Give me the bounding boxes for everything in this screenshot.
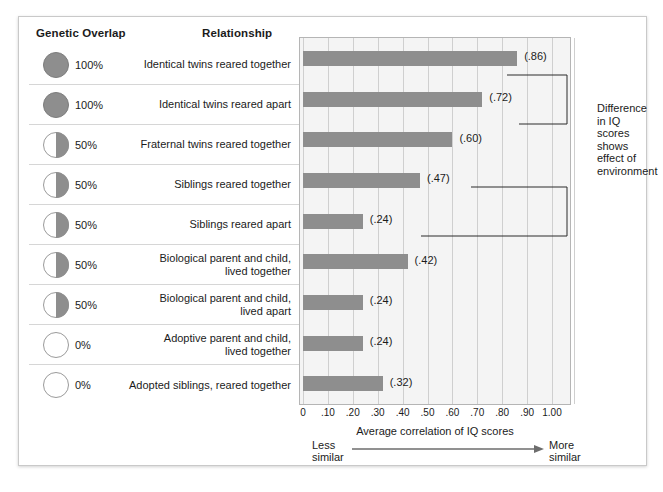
x-tick-label: .70 bbox=[470, 407, 484, 418]
bar-value-label: (.32) bbox=[390, 376, 413, 388]
bar bbox=[303, 376, 383, 391]
table-row: 100%Identical twins reared apart bbox=[29, 85, 301, 125]
genetic-overlap-pie-icon bbox=[43, 92, 69, 118]
table-row: 0%Adoptive parent and child,lived togeth… bbox=[29, 325, 301, 365]
annotation-line-3: scores bbox=[597, 127, 663, 140]
bar-value-label: (.86) bbox=[524, 50, 547, 62]
genetic-overlap-cell: 50% bbox=[29, 252, 125, 278]
genetic-overlap-pie-icon bbox=[43, 172, 69, 198]
bar-value-label: (.47) bbox=[427, 172, 450, 184]
environment-effect-annotation: Difference in IQ scores shows effect of … bbox=[597, 102, 663, 177]
gridline-vertical bbox=[552, 38, 553, 404]
genetic-overlap-pie-icon bbox=[43, 372, 69, 398]
bar-value-label: (.42) bbox=[415, 254, 438, 266]
table-row: 50%Biological parent and child,lived apa… bbox=[29, 285, 301, 325]
genetic-overlap-percent: 100% bbox=[75, 99, 103, 111]
genetic-overlap-cell: 50% bbox=[29, 132, 125, 158]
bar bbox=[303, 214, 363, 229]
x-tick-label: .20 bbox=[346, 407, 360, 418]
bar bbox=[303, 173, 420, 188]
annotation-line-6: environment bbox=[597, 165, 663, 178]
genetic-overlap-cell: 50% bbox=[29, 212, 125, 238]
relationship-label: Siblings reared apart bbox=[125, 218, 301, 231]
less-similar-line1: Less bbox=[312, 439, 344, 451]
x-tick-label: .30 bbox=[371, 407, 385, 418]
less-similar-line2: similar bbox=[312, 451, 344, 463]
gridline-vertical bbox=[574, 38, 575, 404]
x-tick-label: .60 bbox=[445, 407, 459, 418]
column-header-relationship: Relationship bbox=[202, 27, 272, 39]
relationship-table: 100%Identical twins reared together100%I… bbox=[29, 45, 301, 405]
figure-page: Genetic Overlap Relationship 100%Identic… bbox=[0, 0, 663, 492]
x-tick-label: 0 bbox=[300, 407, 306, 418]
genetic-overlap-cell: 50% bbox=[29, 292, 125, 318]
genetic-overlap-percent: 0% bbox=[75, 379, 91, 391]
bar bbox=[303, 92, 482, 107]
similarity-arrow-group: Less similar More similar bbox=[294, 441, 584, 455]
genetic-overlap-cell: 0% bbox=[29, 372, 125, 398]
annotation-line-5: effect of bbox=[597, 152, 663, 165]
table-row: 50%Siblings reared together bbox=[29, 165, 301, 205]
genetic-overlap-percent: 100% bbox=[75, 59, 103, 71]
annotation-line-1: Difference bbox=[597, 102, 663, 115]
column-header-genetic-overlap: Genetic Overlap bbox=[36, 27, 126, 39]
genetic-overlap-percent: 50% bbox=[75, 179, 97, 191]
genetic-overlap-percent: 50% bbox=[75, 299, 97, 311]
table-row: 0%Adopted siblings, reared together bbox=[29, 365, 301, 405]
gridline-vertical bbox=[527, 38, 528, 404]
table-row: 100%Identical twins reared together bbox=[29, 45, 301, 85]
x-tick-label: .90 bbox=[520, 407, 534, 418]
bar-value-label: (.24) bbox=[370, 213, 393, 225]
relationship-label: Adoptive parent and child,lived together bbox=[125, 332, 301, 358]
relationship-label: Biological parent and child,lived apart bbox=[125, 292, 301, 318]
relationship-label: Identical twins reared together bbox=[125, 58, 301, 71]
table-row: 50%Fraternal twins reared together bbox=[29, 125, 301, 165]
relationship-label: Biological parent and child,lived togeth… bbox=[125, 252, 301, 278]
annotation-line-4: shows bbox=[597, 140, 663, 153]
axis-endpoint-more-similar: More similar bbox=[549, 439, 581, 463]
relationship-label: Fraternal twins reared together bbox=[125, 138, 301, 151]
genetic-overlap-percent: 50% bbox=[75, 259, 97, 271]
genetic-overlap-pie-icon bbox=[43, 212, 69, 238]
x-tick-label: .80 bbox=[495, 407, 509, 418]
bar-value-label: (.24) bbox=[370, 294, 393, 306]
figure-card: Genetic Overlap Relationship 100%Identic… bbox=[18, 16, 647, 466]
genetic-overlap-percent: 0% bbox=[75, 339, 91, 351]
genetic-overlap-percent: 50% bbox=[75, 139, 97, 151]
relationship-label: Adopted siblings, reared together bbox=[125, 379, 301, 392]
relationship-label: Siblings reared together bbox=[125, 178, 301, 191]
genetic-overlap-pie-icon bbox=[43, 332, 69, 358]
genetic-overlap-percent: 50% bbox=[75, 219, 97, 231]
genetic-overlap-cell: 100% bbox=[29, 52, 125, 78]
table-row: 50%Siblings reared apart bbox=[29, 205, 301, 245]
x-tick-label: .40 bbox=[396, 407, 410, 418]
genetic-overlap-cell: 100% bbox=[29, 92, 125, 118]
bar-chart-plot-area: (.86)(.72)(.60)(.47)(.24)(.42)(.24)(.24)… bbox=[299, 37, 571, 405]
bar bbox=[303, 254, 408, 269]
bar bbox=[303, 51, 517, 66]
genetic-overlap-cell: 0% bbox=[29, 332, 125, 358]
x-tick-label: .50 bbox=[421, 407, 435, 418]
table-row: 50%Biological parent and child,lived tog… bbox=[29, 245, 301, 285]
more-similar-line2: similar bbox=[549, 451, 581, 463]
bar-value-label: (.60) bbox=[459, 132, 482, 144]
bar-value-label: (.72) bbox=[489, 91, 512, 103]
relationship-label: Identical twins reared apart bbox=[125, 98, 301, 111]
genetic-overlap-cell: 50% bbox=[29, 172, 125, 198]
genetic-overlap-pie-icon bbox=[43, 252, 69, 278]
bar bbox=[303, 295, 363, 310]
x-tick-label: 1.00 bbox=[542, 407, 561, 418]
genetic-overlap-pie-icon bbox=[43, 132, 69, 158]
bar bbox=[303, 132, 452, 147]
annotation-line-2: in IQ bbox=[597, 115, 663, 128]
axis-endpoint-less-similar: Less similar bbox=[312, 439, 344, 463]
x-axis-title: Average correlation of IQ scores bbox=[299, 425, 571, 437]
genetic-overlap-pie-icon bbox=[43, 292, 69, 318]
x-tick-label: .10 bbox=[321, 407, 335, 418]
more-similar-line1: More bbox=[549, 439, 581, 451]
x-axis-tick-labels: 0.10.20.30.40.50.60.70.80.901.00 bbox=[299, 407, 571, 421]
genetic-overlap-pie-icon bbox=[43, 52, 69, 78]
bar-value-label: (.24) bbox=[370, 335, 393, 347]
bar bbox=[303, 336, 363, 351]
